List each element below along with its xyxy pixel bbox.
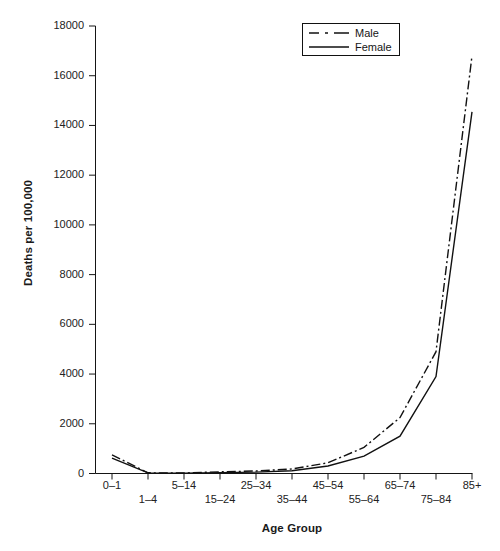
y-axis-tick-label: 6000 [36, 318, 84, 329]
y-axis-title: Deaths per 100,000 [22, 143, 34, 323]
legend-label-male: Male [351, 27, 379, 39]
legend-item-female: Female [307, 40, 395, 54]
series-line-male [112, 56, 472, 473]
x-axis-tick-label: 25–34 [226, 479, 286, 491]
y-axis-tick-label: 12000 [36, 169, 84, 180]
legend-swatch-solid-icon [307, 41, 351, 53]
series-line-female [112, 112, 472, 473]
y-axis-tick-label: 16000 [36, 70, 84, 81]
x-axis-tick-label: 35–44 [262, 493, 322, 505]
chart-legend: Male Female [302, 23, 400, 56]
x-axis-title: Age Group [112, 522, 472, 534]
legend-label-female: Female [351, 41, 392, 53]
x-axis-tick-label: 55–64 [334, 493, 394, 505]
x-axis-tick-label: 15–24 [190, 493, 250, 505]
y-axis-tick-labels: 0200040006000800010000120001400016000180… [36, 0, 84, 551]
y-axis-tick-label: 4000 [36, 368, 84, 379]
y-axis-tick-label: 2000 [36, 418, 84, 429]
y-axis-ticks [89, 26, 96, 474]
x-axis-tick-label: 65–74 [370, 479, 430, 491]
y-axis-tick-label: 8000 [36, 269, 84, 280]
y-axis-tick-label: 14000 [36, 119, 84, 130]
legend-swatch-dash-dot-icon [307, 27, 351, 39]
x-axis-tick-label: 75–84 [406, 493, 466, 505]
chart-figure: 0200040006000800010000120001400016000180… [0, 0, 500, 551]
y-axis-tick-label: 10000 [36, 219, 84, 230]
x-axis-tick-label: 85+ [442, 479, 500, 491]
y-axis-tick-label: 18000 [36, 20, 84, 31]
y-axis-tick-label: 0 [36, 468, 84, 479]
x-axis-tick-label: 5–14 [154, 479, 214, 491]
x-axis-tick-label: 1–4 [118, 493, 178, 505]
x-axis-tick-label: 45–54 [298, 479, 358, 491]
legend-item-male: Male [307, 26, 395, 40]
x-axis-tick-label: 0–1 [82, 479, 142, 491]
